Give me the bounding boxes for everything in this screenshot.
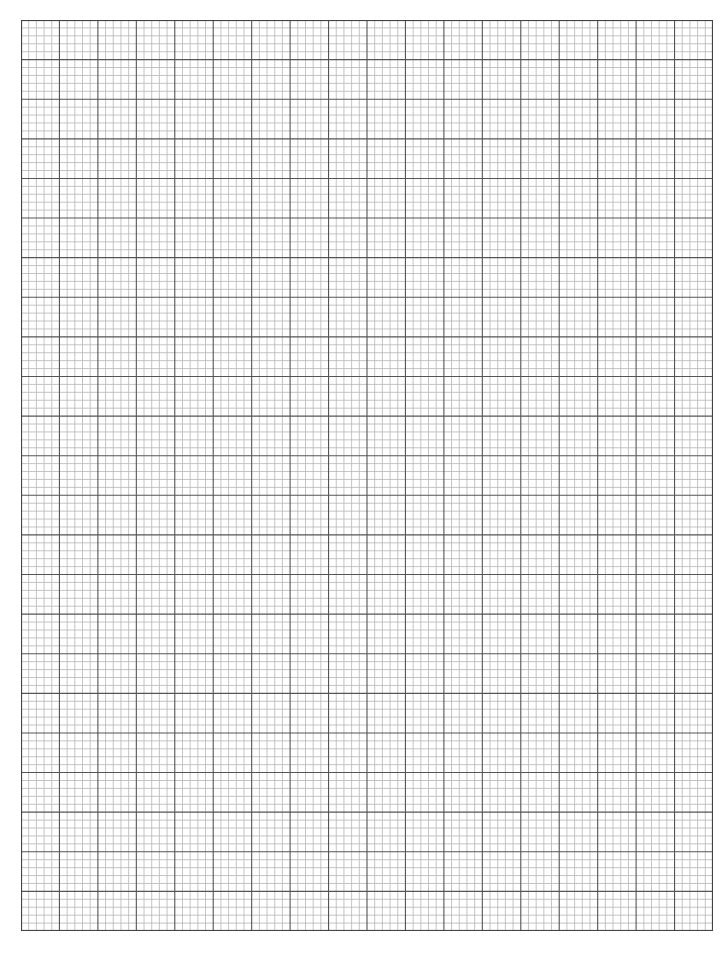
graph-paper-grid: [21, 20, 713, 931]
major-grid-lines: [21, 20, 713, 931]
grid-lines: [21, 20, 713, 931]
